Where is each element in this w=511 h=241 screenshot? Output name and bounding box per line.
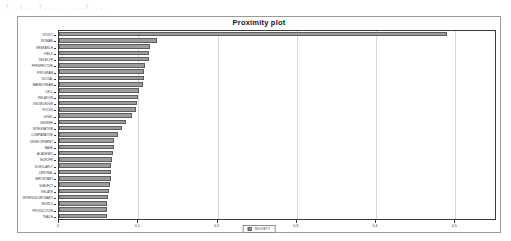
bar [59, 214, 107, 219]
y-axis-tick-label: SUBJECT [39, 184, 53, 188]
y-axis-tick [54, 41, 56, 42]
bar [59, 69, 144, 74]
y-axis-labels: STUDYWOMANRESEARCHFIELDDEVELOPPERSPECTIV… [18, 30, 56, 220]
x-axis-tick [296, 220, 297, 223]
x-axis-tick [375, 220, 376, 223]
x-axis-tick [58, 220, 59, 223]
legend-swatch-icon [248, 227, 252, 231]
y-axis-tick [54, 123, 56, 124]
y-axis-tick [54, 160, 56, 161]
y-axis-tick [54, 92, 56, 93]
bar [59, 157, 112, 162]
bar [59, 113, 132, 118]
y-axis-tick-label: LEVEL [44, 115, 54, 119]
y-axis-tick-label: KNOWLEDGE [33, 102, 53, 106]
legend-label: SOCIETY [255, 227, 271, 231]
x-axis-tick [137, 220, 138, 223]
y-axis-tick [54, 198, 56, 199]
bar [59, 176, 111, 181]
y-axis-tick [54, 35, 56, 36]
y-axis-tick-label: ACADEMIC [37, 152, 53, 156]
page-title: Proximity plot [18, 17, 500, 28]
y-axis-tick [54, 192, 56, 193]
bar [59, 201, 107, 206]
bar [59, 120, 126, 125]
y-axis-tick [54, 135, 56, 136]
x-axis-tick-label: 0.1 [135, 224, 140, 228]
y-axis-tick [54, 154, 56, 155]
y-axis-tick-label: PRODUCTION [33, 209, 53, 213]
y-axis-tick-label: DEGREE [40, 121, 53, 125]
bar [59, 195, 108, 200]
y-axis-tick-label: INTEGRATIVE [33, 127, 53, 131]
bar [59, 138, 114, 143]
y-axis-tick-label: TEACH [43, 215, 53, 219]
x-axis-tick [217, 220, 218, 223]
y-axis-tick-label: FIELD [44, 52, 53, 56]
grid-line [218, 31, 219, 219]
y-axis-tick-label: RESEARCH [36, 46, 53, 50]
y-axis-tick [54, 129, 56, 130]
y-axis-tick-label: MAINSTREAM [33, 83, 53, 87]
bar [59, 63, 145, 68]
y-axis-tick [54, 110, 56, 111]
y-axis-tick [54, 142, 56, 143]
plot-wrapper: STUDYWOMANRESEARCHFIELDDEVELOPPERSPECTIV… [18, 28, 500, 233]
bar [59, 207, 107, 212]
y-axis-tick-label: WORLD [42, 202, 53, 206]
bar [59, 51, 149, 56]
y-axis-tick-label: BASE [45, 146, 53, 150]
y-axis-tick [54, 148, 56, 149]
grid-line [376, 31, 377, 219]
y-axis-tick-label: IMPORTANT [35, 177, 53, 181]
y-axis-tick-label: PROGRAM [37, 71, 53, 75]
y-axis-tick [54, 98, 56, 99]
y-axis-tick [54, 60, 56, 61]
y-axis-tick-label: INTERDISCIPLINARY [23, 196, 53, 200]
y-axis-tick [54, 211, 56, 212]
y-axis-tick [54, 167, 56, 168]
x-axis-tick-label: 0.5 [452, 224, 457, 228]
x-axis-tick-label: 0 [57, 224, 59, 228]
y-axis-tick [54, 204, 56, 205]
bar [59, 189, 109, 194]
y-axis-tick-label: FOCUS [42, 108, 53, 112]
bar [59, 88, 139, 93]
x-axis-tick-label: 0.4 [373, 224, 378, 228]
y-axis-tick [54, 186, 56, 187]
y-axis-tick-label: COMPARATIVE [31, 133, 53, 137]
y-axis-tick-label: CENTRAL [39, 171, 53, 175]
y-axis-tick-label: CELL [45, 90, 53, 94]
plot-area [58, 30, 496, 220]
y-axis-tick-label: SCHOLARLY [35, 165, 53, 169]
x-axis-tick-label: 0.3 [293, 224, 298, 228]
y-axis-tick-label: PERSPECTIVE [32, 64, 53, 68]
y-axis-tick [54, 66, 56, 67]
y-axis-tick-label: WOMAN [41, 39, 53, 43]
x-axis-tick-label: 0.2 [214, 224, 219, 228]
y-axis-tick [54, 117, 56, 118]
bar [59, 163, 111, 168]
x-axis-tick [454, 220, 455, 223]
bar [59, 82, 143, 87]
bar [59, 32, 447, 37]
grid-line [455, 31, 456, 219]
bar [59, 57, 149, 62]
bar [59, 38, 157, 43]
y-axis-tick-label: RELATE [41, 190, 53, 194]
y-axis-tick [54, 217, 56, 218]
bar [59, 126, 122, 131]
chart-legend[interactable]: SOCIETY [243, 225, 276, 233]
x-axis: 00.10.20.30.40.5 [58, 220, 496, 234]
bar [59, 151, 113, 156]
y-axis-tick-label: DEVELOPMENT [30, 140, 53, 144]
y-axis-tick [54, 48, 56, 49]
y-axis-tick-label: RELATION [38, 96, 53, 100]
y-axis-tick [54, 85, 56, 86]
bar [59, 132, 118, 137]
page-header-partial-text: f . , r . , . f , . . , . . . , . f . , … [0, 0, 511, 13]
y-axis-tick-label: SOCIAL [42, 77, 53, 81]
y-axis-tick-label: STUDY [43, 33, 53, 37]
y-axis-tick [54, 173, 56, 174]
y-axis-tick [54, 179, 56, 180]
